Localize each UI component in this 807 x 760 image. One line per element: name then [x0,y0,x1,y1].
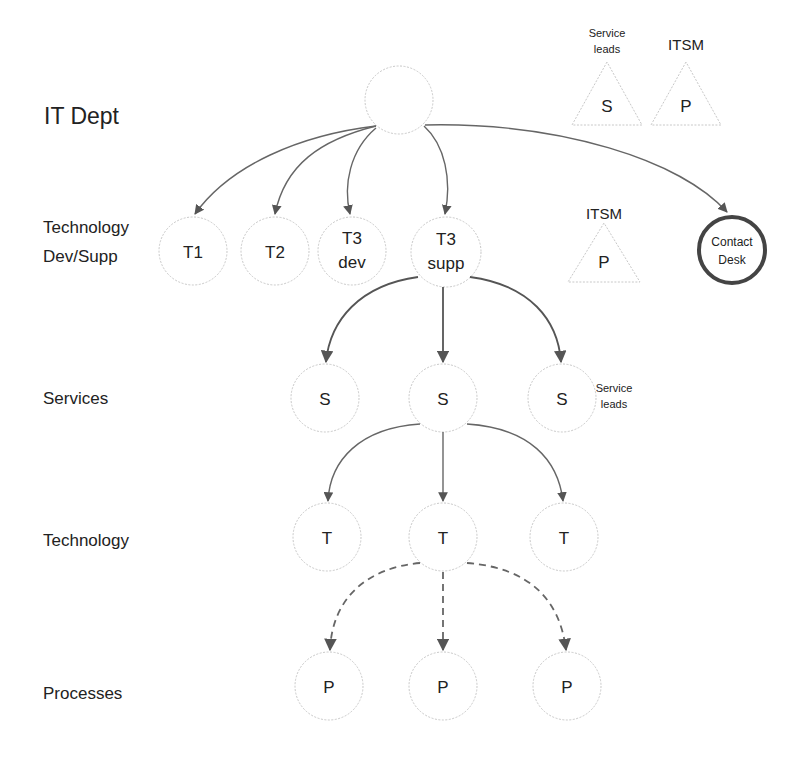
legend-service-leads: Service leads S [572,27,642,125]
legend-itsm-symbol: P [680,97,691,116]
process-node-3[interactable]: P [533,652,601,720]
itsm-marker: ITSM P [568,205,640,282]
technology-node-3[interactable]: T [530,503,598,571]
node-t3-supp-line1: T3 [436,230,456,249]
contact-desk-line1: Contact [711,235,753,249]
node-t2[interactable]: T2 [241,217,309,285]
node-t3-dev-line2: dev [338,253,366,272]
node-t3-dev[interactable]: T3 dev [318,217,386,285]
edge-t3supp-s3 [470,277,561,362]
itsm-marker-label: ITSM [586,205,622,222]
itsm-marker-symbol: P [598,253,609,272]
edge-root-t2 [275,126,376,214]
row-label-it-dept: IT Dept [44,103,120,129]
node-contact-desk[interactable]: Contact Desk [699,217,765,283]
process-node-1[interactable]: P [295,652,363,720]
technology-node-1[interactable]: T [293,503,361,571]
edge-t3supp-s1 [326,277,418,362]
technology-node-1-label: T [322,529,332,548]
edge-t2-p1 [330,563,420,650]
legend-itsm-label: ITSM [668,36,704,53]
legend-service-leads-line1: Service [589,27,626,39]
row-label-technology: Technology [43,218,130,237]
service-node-3-label: S [556,390,567,409]
row-label-technology-layer: Technology [43,531,130,550]
edge-root-t3supp [424,126,448,214]
service-node-2-label: S [437,390,448,409]
service-node-3[interactable]: S [528,364,596,432]
technology-node-3-label: T [559,529,569,548]
service-node-2[interactable]: S [409,364,477,432]
legend-itsm: ITSM P [651,36,721,125]
edge-root-t3dev [347,128,376,214]
legend-service-leads-line2: leads [594,43,621,55]
process-node-2-label: P [437,678,448,697]
node-t1-label: T1 [183,243,203,262]
edge-s2-t1 [328,424,420,501]
process-node-2[interactable]: P [409,652,477,720]
node-t3-supp-line2: supp [428,254,465,273]
node-t2-label: T2 [265,243,285,262]
service-leads-side-line1: Service [596,382,633,394]
root-node[interactable] [365,66,433,134]
row-label-dev-supp: Dev/Supp [43,247,118,266]
process-node-1-label: P [323,678,334,697]
process-node-3-label: P [561,678,572,697]
service-leads-side-line2: leads [601,398,628,410]
contact-desk-line2: Desk [718,253,746,267]
org-diagram: IT Dept Technology Dev/Supp Services Tec… [0,0,807,760]
edge-root-contact-desk [425,125,727,212]
row-label-services: Services [43,389,108,408]
technology-node-2-label: T [438,529,448,548]
service-node-1[interactable]: S [291,364,359,432]
row-label-processes: Processes [43,684,122,703]
technology-node-2[interactable]: T [409,503,477,571]
service-node-1-label: S [319,390,330,409]
legend-service-leads-symbol: S [601,97,612,116]
edge-root-t1 [195,126,376,214]
node-t1[interactable]: T1 [159,217,227,285]
node-t3-dev-line1: T3 [342,229,362,248]
edge-s2-t3 [467,424,563,501]
edge-t2-p3 [467,563,566,650]
